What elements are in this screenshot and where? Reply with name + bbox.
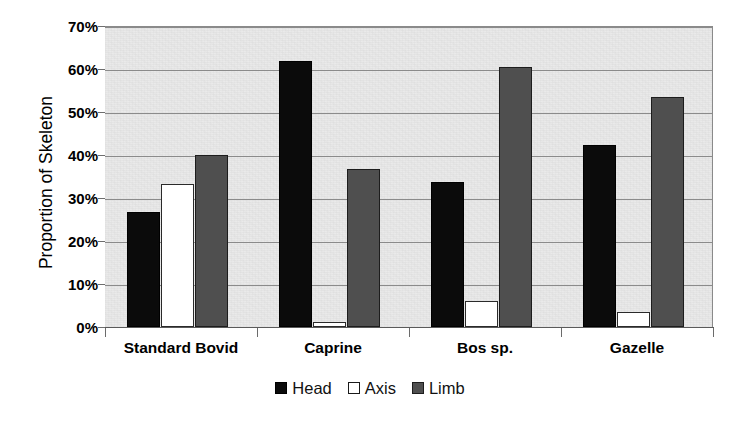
x-tick-mark	[409, 328, 410, 337]
bar-gazelle-axis	[617, 312, 650, 327]
y-tick-label: 0%	[40, 320, 98, 335]
black-square-icon	[275, 382, 287, 394]
bar-gazelle-limb	[651, 97, 684, 327]
gridline	[105, 70, 712, 71]
bar-bos-sp-axis	[465, 301, 498, 327]
y-tick-mark	[98, 112, 105, 113]
x-tick-mark	[561, 328, 562, 337]
bar-standard-bovid-head	[127, 212, 160, 327]
white-square-icon	[348, 382, 360, 394]
x-category-label: Caprine	[304, 339, 362, 357]
y-tick-mark	[98, 327, 105, 328]
y-tick-mark	[98, 241, 105, 242]
bar-standard-bovid-axis	[161, 184, 194, 327]
y-axis-ticks: 0%10%20%30%40%50%60%70%	[40, 0, 98, 427]
y-tick-label: 10%	[40, 277, 98, 292]
bar-caprine-limb	[347, 169, 380, 327]
bar-chart: Proportion of Skeleton 0%10%20%30%40%50%…	[0, 0, 740, 427]
y-tick-label: 70%	[40, 19, 98, 34]
gridline	[105, 113, 712, 114]
y-tick-mark	[98, 69, 105, 70]
legend-item-axis[interactable]: Axis	[348, 380, 396, 397]
y-tick-label: 20%	[40, 234, 98, 249]
y-tick-mark	[98, 26, 105, 27]
bar-standard-bovid-limb	[195, 155, 228, 327]
y-tick-mark	[98, 284, 105, 285]
bar-bos-sp-limb	[499, 67, 532, 327]
y-tick-label: 60%	[40, 62, 98, 77]
x-category-label: Gazelle	[610, 339, 664, 357]
legend-label: Head	[292, 380, 331, 397]
legend-label: Axis	[365, 380, 396, 397]
bar-gazelle-head	[583, 145, 616, 327]
bar-bos-sp-head	[431, 182, 464, 327]
x-tick-mark	[713, 328, 714, 337]
x-tick-mark	[257, 328, 258, 337]
y-tick-mark	[98, 198, 105, 199]
legend-item-head[interactable]: Head	[275, 380, 331, 397]
y-tick-mark	[98, 155, 105, 156]
chart-legend: HeadAxisLimb	[0, 380, 740, 397]
x-tick-mark	[105, 328, 106, 337]
legend-item-limb[interactable]: Limb	[412, 380, 465, 397]
legend-label: Limb	[429, 380, 465, 397]
gridline	[105, 27, 712, 28]
x-category-label: Bos sp.	[457, 339, 513, 357]
plot-area	[105, 26, 713, 327]
x-category-label: Standard Bovid	[124, 339, 239, 357]
bar-caprine-head	[279, 61, 312, 327]
y-tick-label: 30%	[40, 191, 98, 206]
gray-square-icon	[412, 382, 424, 394]
y-tick-label: 40%	[40, 148, 98, 163]
y-tick-label: 50%	[40, 105, 98, 120]
